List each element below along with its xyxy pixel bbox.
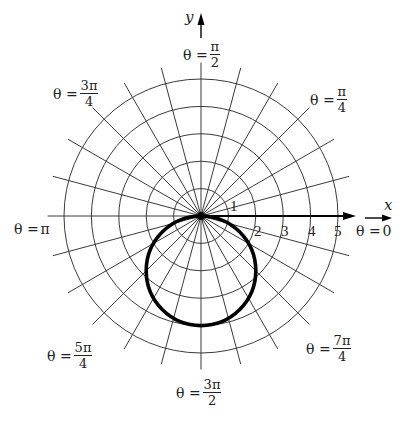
fraction: 7π4: [333, 334, 352, 363]
grid-spoke: [201, 216, 278, 349]
grid-spoke: [161, 216, 201, 364]
ring-tick-1: 1: [230, 199, 238, 214]
grid-spoke: [201, 216, 241, 364]
grid-spoke: [124, 216, 201, 349]
fraction-denominator: 4: [338, 100, 346, 114]
theta-prefix: θ =: [356, 224, 381, 238]
fraction-numerator: 3π: [203, 378, 222, 393]
angle-value: π: [41, 222, 50, 236]
fraction-numerator: 3π: [80, 79, 99, 94]
ring-tick-2: 2: [254, 224, 262, 239]
fraction: 5π4: [74, 341, 93, 370]
fraction: π4: [337, 85, 348, 114]
fraction-denominator: 2: [208, 393, 216, 407]
grid-spoke: [201, 83, 278, 216]
x-axis-label: x: [384, 198, 392, 213]
ring-tick-5: 5: [334, 224, 342, 239]
angle-label-pi-over-4: θ = π4: [310, 85, 347, 114]
grid-spoke: [201, 139, 334, 216]
angle-label-5pi-over-4: θ = 5π4: [47, 341, 92, 370]
x-axis-arrowhead: [343, 212, 356, 220]
grid-spoke: [124, 83, 201, 216]
fraction: π2: [210, 40, 221, 69]
fraction-numerator: π: [337, 85, 348, 100]
fraction-numerator: π: [210, 40, 221, 55]
fraction: 3π4: [80, 79, 99, 108]
grid-spoke: [53, 176, 201, 216]
ring-tick-3: 3: [281, 224, 289, 239]
theta-prefix: θ =: [53, 87, 78, 101]
grid-spoke: [93, 108, 201, 216]
y-axis-label: y: [185, 10, 193, 25]
theta-zero-arrowhead: [382, 215, 392, 222]
fraction-denominator: 4: [79, 356, 87, 370]
fraction-denominator: 2: [211, 55, 219, 69]
angle-label-pi: θ = π: [14, 222, 50, 236]
theta-prefix: θ =: [310, 93, 335, 107]
fraction-denominator: 4: [85, 94, 93, 108]
angle-label-3pi-over-4: θ = 3π4: [53, 79, 98, 108]
y-axis-arrowhead: [198, 13, 205, 25]
theta-prefix: θ =: [306, 342, 331, 356]
grid-spoke: [201, 176, 349, 216]
angle-label-0: θ = 0: [356, 224, 392, 238]
ring-tick-4: 4: [308, 224, 316, 239]
angle-label-7pi-over-4: θ = 7π4: [306, 334, 351, 363]
fraction: 3π2: [203, 378, 222, 407]
fraction-denominator: 4: [338, 349, 346, 363]
fraction-numerator: 7π: [333, 334, 352, 349]
angle-value: 0: [383, 224, 392, 238]
angle-label-3pi-over-2: θ = 3π2: [176, 378, 221, 407]
grid-spoke: [68, 139, 201, 216]
theta-prefix: θ =: [14, 222, 39, 236]
angle-label-pi-over-2: θ = π2: [183, 40, 220, 69]
grid-spoke: [201, 108, 309, 216]
theta-prefix: θ =: [176, 386, 201, 400]
grid-spoke: [68, 216, 201, 293]
grid-spoke: [201, 68, 241, 216]
fraction-numerator: 5π: [74, 341, 93, 356]
theta-prefix: θ =: [183, 48, 208, 62]
grid-spoke: [161, 68, 201, 216]
theta-prefix: θ =: [47, 349, 72, 363]
